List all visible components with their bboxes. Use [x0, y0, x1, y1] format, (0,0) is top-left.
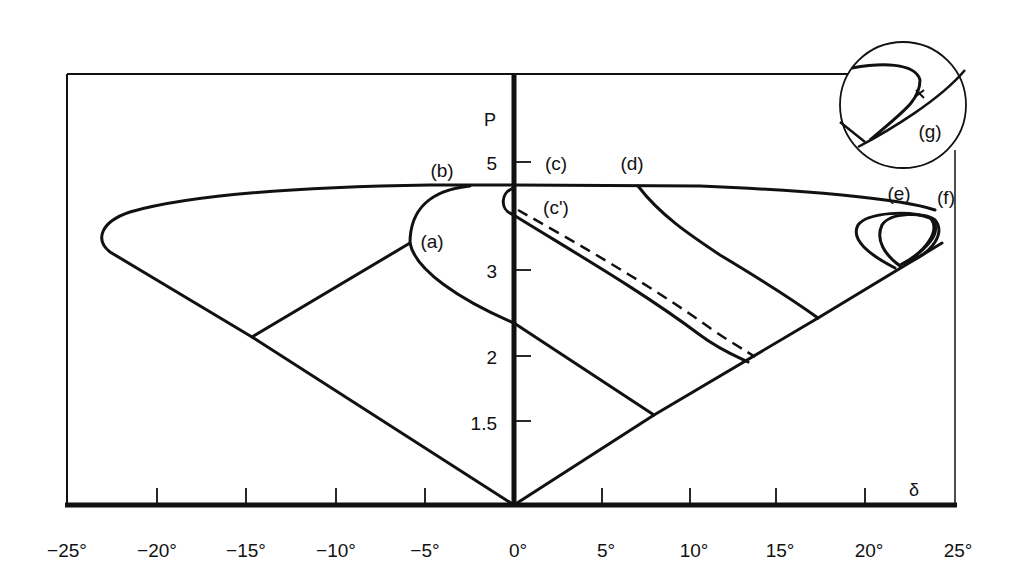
y-axis-label: P — [484, 110, 496, 130]
x-tick-label: 10° — [680, 540, 709, 561]
curve-a-arc — [410, 186, 654, 415]
curve-label-f: (f) — [937, 187, 955, 208]
curve-label-d: (d) — [620, 153, 643, 174]
curves — [102, 185, 942, 505]
x-tick-label: 15° — [766, 540, 795, 561]
curve-top-right — [514, 185, 935, 210]
x-tick-label: 5° — [597, 540, 615, 561]
curve-outer-left — [102, 185, 514, 505]
curve-c-prime-dashed — [518, 210, 755, 357]
curve-e — [856, 213, 934, 268]
curve-label-b: (b) — [430, 160, 453, 181]
curve-label-a: (a) — [420, 231, 443, 252]
x-tick-label: −10° — [316, 540, 356, 561]
x-tick-label: −25° — [47, 540, 87, 561]
plot-frame — [65, 74, 957, 505]
x-tick-label: −5° — [410, 540, 439, 561]
x-tick-labels: −25° −20° −15° −10° −5° 0° 5° 10° 15° 20… — [47, 540, 972, 561]
y-tick-labels: 1.5 2 3 5 — [471, 153, 497, 434]
curve-c — [512, 214, 748, 362]
x-tick-label: −15° — [226, 540, 266, 561]
chart: −25° −20° −15° −10° −5° 0° 5° 10° 15° 20… — [0, 0, 1034, 578]
curve-label-c-prime: (c') — [543, 197, 569, 218]
y-tick-label: 2 — [486, 347, 497, 368]
x-tick-label: 25° — [944, 540, 973, 561]
x-tick-label: 20° — [855, 540, 884, 561]
y-tick-label: 1.5 — [471, 413, 497, 434]
curve-label-g: (g) — [918, 121, 941, 142]
curve-label-e: (e) — [887, 183, 910, 204]
x-tick-label: −20° — [137, 540, 177, 561]
inset-g — [840, 42, 966, 168]
x-axis-label: δ — [909, 480, 919, 500]
x-tick-label: 0° — [509, 540, 527, 561]
curve-label-c: (c) — [545, 153, 567, 174]
y-tick-label: 3 — [486, 261, 497, 282]
curve-outer-right — [514, 243, 942, 505]
y-tick-label: 5 — [486, 153, 497, 174]
y-axis-ticks — [514, 162, 531, 421]
curve-a — [252, 243, 410, 337]
